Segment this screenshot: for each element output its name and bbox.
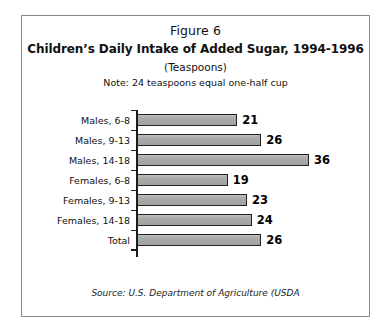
bar-value-label: 24 <box>257 213 273 227</box>
bar <box>137 154 309 166</box>
bar-category-label: Total <box>22 235 134 246</box>
bar-category-label: Females, 6-8 <box>22 175 134 186</box>
bar-category-label: Males, 9-13 <box>22 135 134 146</box>
bar-value-label: 21 <box>242 113 258 127</box>
bar-and-value: 23 <box>137 193 268 207</box>
bar <box>137 234 261 246</box>
bar-row: Females, 9-1323 <box>22 190 369 210</box>
bar-and-value: 26 <box>137 233 282 247</box>
bar-and-value: 36 <box>137 153 330 167</box>
bar-value-label: 26 <box>266 133 282 147</box>
axis-tick <box>131 190 137 192</box>
axis-tick <box>131 150 137 152</box>
bar-value-label: 36 <box>314 153 330 167</box>
bar-row: Males, 9-1326 <box>22 130 369 150</box>
bar-value-label: 23 <box>252 193 268 207</box>
bar <box>137 194 247 206</box>
figure-note: Note: 24 teaspoons equal one-half cup <box>22 77 369 88</box>
bar-category-label: Males, 14-18 <box>22 155 134 166</box>
figure-number: Figure 6 <box>22 23 369 38</box>
bar-and-value: 19 <box>137 173 249 187</box>
bar-row: Males, 14-1836 <box>22 150 369 170</box>
bar-row: Males, 6-821 <box>22 110 369 130</box>
axis-tick <box>131 170 137 172</box>
source-note: Source: U.S. Department of Agriculture (… <box>22 288 369 298</box>
axis-tick <box>131 249 137 251</box>
bar-value-label: 19 <box>233 173 249 187</box>
bar-row: Females, 14-1824 <box>22 210 369 230</box>
axis-tick <box>131 230 137 232</box>
bar <box>137 174 228 186</box>
bar-and-value: 21 <box>137 113 258 127</box>
bar-row: Total26 <box>22 230 369 250</box>
bar-value-label: 26 <box>266 233 282 247</box>
bar <box>137 214 252 226</box>
axis-tick <box>131 210 137 212</box>
bar-category-label: Females, 9-13 <box>22 195 134 206</box>
figure-frame: Figure 6 Children’s Daily Intake of Adde… <box>21 15 370 317</box>
bar-chart-plot-area: Males, 6-821Males, 9-1326Males, 14-1836F… <box>22 100 369 275</box>
bar <box>137 114 237 126</box>
bar-row: Females, 6-819 <box>22 170 369 190</box>
figure-units-label: (Teaspoons) <box>22 61 369 73</box>
axis-tick <box>131 130 137 132</box>
bar-and-value: 24 <box>137 213 273 227</box>
axis-tick <box>131 110 137 112</box>
bar-category-label: Males, 6-8 <box>22 115 134 126</box>
page-title: Children’s Daily Intake of Added Sugar, … <box>22 42 369 56</box>
bar-and-value: 26 <box>137 133 282 147</box>
bar-category-label: Females, 14-18 <box>22 215 134 226</box>
bar <box>137 134 261 146</box>
